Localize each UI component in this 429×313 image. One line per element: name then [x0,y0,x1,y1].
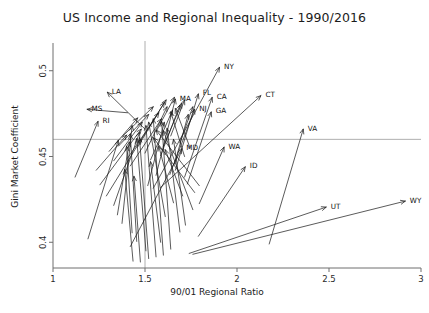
y-axis-title: Gini Market Coefficient [10,105,20,208]
state-label-LA: LA [112,87,121,96]
arrow-series [75,67,405,262]
state-label-CA: CA [217,92,227,101]
state-label-VA: VA [308,124,317,133]
arrow-shaft [106,139,141,196]
state-label-GA: GA [216,106,227,115]
arrow-shaft [189,207,326,253]
x-tick-label-0: 1 [50,274,55,284]
arrow-head [241,167,245,172]
arrow-shaft [139,138,148,259]
arrow-shaft [174,139,186,225]
arrow-shaft [123,107,153,136]
arrow-WA [199,147,224,204]
arrow-shaft [75,121,98,177]
arrow-shaft [88,140,118,239]
arrow-shaft [193,201,406,254]
state-label-MA: MA [180,94,191,103]
arrow-30 [106,139,141,196]
state-label-WA: WA [229,142,241,151]
arrow-WY [193,200,406,254]
arrow-VA [269,129,304,244]
arrow-shaft [134,176,140,262]
arrow-58 [96,135,126,170]
y-tick-label-2: 0.5 [38,64,48,78]
x-tick-label-2: 2 [234,274,239,284]
arrow-shaft [199,147,224,204]
state-label-ID: ID [250,161,258,170]
state-label-MS: MS [92,104,103,113]
arrow-52 [88,140,119,239]
state-label-WY: WY [410,196,422,205]
x-axis-title: 90/01 Regional Ratio [170,287,264,297]
arrow-RI [75,121,98,177]
arrow-16 [138,138,149,259]
y-tick-label-1: 0.45 [38,147,48,166]
arrow-shaft [269,129,303,244]
chart-plot-area: NYCTLAMSRIMAFLNJCAGAMDWAIDVAUTWY11.522.5… [0,0,429,313]
state-label-NJ: NJ [199,104,207,113]
state-label-RI: RI [103,116,110,125]
x-tick-label-4: 3 [418,274,423,284]
x-tick-label-3: 2.5 [322,274,336,284]
state-label-FL: FL [203,88,211,97]
arrow-53 [123,169,133,261]
state-label-NY: NY [224,62,234,71]
gridlines [53,41,421,268]
state-label-CT: CT [265,90,275,99]
arrow-ID [198,167,245,236]
arrow-UT [189,207,326,254]
state-label-UT: UT [331,202,341,211]
state-label-MD: MD [186,143,198,152]
arrow-43 [123,107,153,136]
arrow-shaft [96,135,126,170]
arrow-shaft [198,167,245,236]
x-tick-label-1: 1.5 [138,274,152,284]
y-tick-label-0: 0.4 [38,236,48,250]
tick-labels: NYCTLAMSRIMAFLNJCAGAMDWAIDVAUTWY11.522.5… [10,62,424,297]
chart-figure: US Income and Regional Inequality - 1990… [0,0,429,313]
